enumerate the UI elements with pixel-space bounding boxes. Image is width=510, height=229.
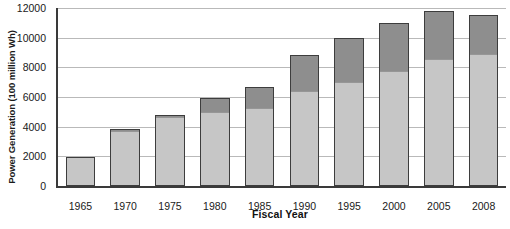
bar-1995	[334, 38, 364, 186]
bar-1975	[155, 115, 185, 186]
bar-segment-upper	[470, 16, 498, 55]
bar-segment-upper	[201, 99, 229, 112]
bar-segment-upper	[380, 24, 408, 71]
bar-segment-divider	[246, 108, 274, 109]
bar-1985	[245, 87, 275, 186]
bar-segment-upper	[425, 12, 453, 59]
y-axis-tick-label: 10000	[0, 33, 46, 43]
bar-segment-divider	[291, 91, 319, 92]
bar-2000	[379, 23, 409, 186]
bar-segment-upper	[335, 39, 363, 82]
bar-segment-upper	[246, 88, 274, 109]
y-axis-tick-label: 8000	[0, 62, 46, 72]
bar-segment-divider	[156, 117, 184, 118]
bar-segment-divider	[470, 54, 498, 55]
power-generation-bar-chart: Power Generation (100 million Wh) 020004…	[0, 0, 510, 229]
bar-1970	[110, 129, 140, 186]
bar-1990	[290, 55, 320, 186]
bar-segment-divider	[201, 112, 229, 113]
y-axis-tick-label: 2000	[0, 151, 46, 161]
bars-group	[58, 8, 506, 186]
y-axis-tick-label: 0	[0, 181, 46, 191]
bar-segment-divider	[380, 71, 408, 72]
bar-segment-divider	[425, 59, 453, 60]
bar-segment-divider	[335, 82, 363, 83]
x-axis-title: Fiscal Year	[56, 208, 504, 220]
plot-area: 020004000600080001000012000 196519701975…	[56, 8, 506, 188]
bar-segment-upper	[291, 56, 319, 90]
y-axis-tick-label: 6000	[0, 92, 46, 102]
bar-segment-divider	[111, 131, 139, 132]
bar-2005	[424, 11, 454, 186]
y-axis-tick-label: 4000	[0, 122, 46, 132]
y-axis-tick-label: 12000	[0, 3, 46, 13]
bar-2008	[469, 15, 499, 186]
bar-1980	[200, 98, 230, 186]
bar-1965	[66, 157, 96, 186]
